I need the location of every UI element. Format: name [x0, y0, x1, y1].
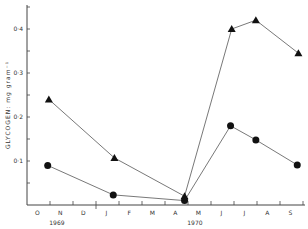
y-tick-label: 0·2	[13, 113, 23, 120]
x-month-label: A	[173, 209, 178, 216]
triangle-series-line	[49, 20, 299, 196]
glycogen-line-chart: 0·10·20·30·4ONDJFMAMJJAS19691970GLYCOGEN…	[0, 0, 308, 229]
triangle-marker-icon	[252, 16, 260, 23]
x-month-label: F	[128, 209, 132, 216]
series-markers	[44, 16, 302, 204]
x-year-label: 1969	[49, 219, 64, 226]
triangle-marker-icon	[294, 49, 302, 56]
y-tick-label: 0·4	[13, 25, 23, 32]
axes	[27, 5, 305, 209]
x-year-label: 1970	[187, 219, 202, 226]
circle-marker-icon	[294, 161, 301, 168]
axis-labels: 0·10·20·30·4ONDJFMAMJJAS19691970GLYCOGEN…	[4, 25, 292, 226]
x-month-label: A	[265, 209, 270, 216]
x-month-label: J	[219, 209, 222, 217]
x-month-label: D	[81, 209, 86, 216]
circle-marker-icon	[227, 122, 234, 129]
x-month-label: M	[150, 209, 155, 216]
triangle-marker-icon	[45, 95, 53, 102]
y-axis-title: GLYCOGEN: mg gram⁻¹	[4, 61, 12, 149]
circle-marker-icon	[181, 197, 188, 204]
circle-marker-icon	[252, 136, 259, 143]
circle-marker-icon	[110, 191, 117, 198]
x-month-label: O	[35, 209, 40, 216]
x-month-label: N	[58, 209, 63, 216]
triangle-marker-icon	[228, 25, 236, 32]
y-tick-label: 0·3	[13, 69, 23, 76]
x-month-label: M	[196, 209, 201, 216]
x-month-label: S	[288, 209, 292, 216]
y-tick-label: 0·1	[13, 157, 23, 164]
series-lines	[48, 20, 299, 200]
x-month-label: J	[242, 209, 245, 217]
circle-marker-icon	[44, 162, 51, 169]
x-month-label: J	[104, 209, 107, 217]
